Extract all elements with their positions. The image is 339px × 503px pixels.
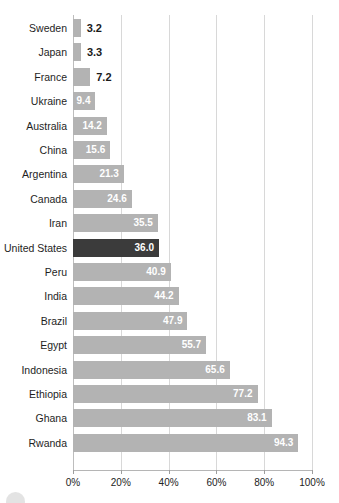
bar-track: 21.3: [73, 165, 312, 183]
bar-track: 24.6: [73, 190, 312, 208]
bar-series: Sweden3.2Japan3.3France7.2Ukraine9.4Aust…: [0, 15, 339, 470]
category-label: Rwanda: [0, 431, 67, 455]
category-label: Iran: [0, 211, 67, 235]
bar-track: 35.5: [73, 214, 312, 232]
x-tick-label: 20%: [99, 477, 143, 488]
bar-row: Japan3.3: [0, 40, 339, 64]
category-label: Canada: [0, 187, 67, 211]
bar-row: Argentina21.3: [0, 162, 339, 186]
category-label: Sweden: [0, 16, 67, 40]
category-label: Argentina: [0, 162, 67, 186]
category-label: India: [0, 284, 67, 308]
bar-track: 7.2: [73, 68, 312, 86]
bar-track: 77.2: [73, 385, 312, 403]
bar-value-label: 9.4: [73, 92, 95, 110]
bar-row: France7.2: [0, 65, 339, 89]
bar-track: 14.2: [73, 117, 312, 135]
bar-value-label: 44.2: [73, 287, 179, 305]
category-label: Peru: [0, 260, 67, 284]
bar-value-label: 36.0: [73, 239, 159, 257]
bar-track: 3.2: [73, 19, 312, 37]
bar[interactable]: [73, 19, 81, 37]
bar-row: Indonesia65.6: [0, 358, 339, 382]
chart-title: [0, 0, 339, 7]
x-axis-line: [73, 470, 312, 471]
bar-row: Australia14.2: [0, 114, 339, 138]
bar-value-label: 47.9: [73, 312, 187, 330]
category-label: Japan: [0, 40, 67, 64]
bar-track: 15.6: [73, 141, 312, 159]
bar-track: 3.3: [73, 43, 312, 61]
bar-track: 40.9: [73, 263, 312, 281]
category-label: France: [0, 65, 67, 89]
bar-row: Sweden3.2: [0, 16, 339, 40]
bar-value-label: 83.1: [73, 409, 272, 427]
bar-value-label: 3.2: [81, 19, 102, 37]
bar-row: Canada24.6: [0, 187, 339, 211]
bar-row: China15.6: [0, 138, 339, 162]
category-label: China: [0, 138, 67, 162]
bar-value-label: 14.2: [73, 117, 107, 135]
bar-value-label: 94.3: [73, 434, 298, 452]
x-tick-label: 60%: [194, 477, 238, 488]
bar-value-label: 55.7: [73, 336, 206, 354]
bar-value-label: 24.6: [73, 190, 132, 208]
bar-track: 44.2: [73, 287, 312, 305]
category-label: Egypt: [0, 333, 67, 357]
category-label: United States: [0, 236, 67, 260]
bar-track: 36.0: [73, 239, 312, 257]
x-tick: [169, 470, 170, 474]
x-tick-label: 80%: [242, 477, 286, 488]
bar-track: 65.6: [73, 361, 312, 379]
bar-track: 94.3: [73, 434, 312, 452]
bar-row: Ethiopia77.2: [0, 382, 339, 406]
bar-value-label: 77.2: [73, 385, 258, 403]
bar-row: Peru40.9: [0, 260, 339, 284]
category-label: Ethiopia: [0, 382, 67, 406]
bar[interactable]: [73, 43, 81, 61]
bar-value-label: 7.2: [90, 68, 111, 86]
x-tick-label: 40%: [147, 477, 191, 488]
x-tick: [73, 470, 74, 474]
bar-row: Rwanda94.3: [0, 431, 339, 455]
x-tick-label: 0%: [51, 477, 95, 488]
bar-track: 47.9: [73, 312, 312, 330]
bar-value-label: 3.3: [81, 43, 102, 61]
plot-area: Sweden3.2Japan3.3France7.2Ukraine9.4Aust…: [0, 15, 339, 470]
bar-value-label: 40.9: [73, 263, 171, 281]
bar-value-label: 35.5: [73, 214, 158, 232]
bar-value-label: 65.6: [73, 361, 230, 379]
bar-track: 83.1: [73, 409, 312, 427]
category-label: Ukraine: [0, 89, 67, 113]
bar-value-label: 21.3: [73, 165, 124, 183]
category-label: Indonesia: [0, 358, 67, 382]
bar-track: 9.4: [73, 92, 312, 110]
horizontal-bar-chart: Sweden3.2Japan3.3France7.2Ukraine9.4Aust…: [0, 0, 339, 503]
x-tick: [121, 470, 122, 474]
bar-row: Egypt55.7: [0, 333, 339, 357]
category-label: Australia: [0, 114, 67, 138]
x-tick: [264, 470, 265, 474]
bar-value-label: 15.6: [73, 141, 110, 159]
bar-row: United States36.0: [0, 236, 339, 260]
category-label: Ghana: [0, 406, 67, 430]
bar-row: India44.2: [0, 284, 339, 308]
circle-mark-icon: [6, 492, 25, 503]
bar-row: Iran35.5: [0, 211, 339, 235]
category-label: Brazil: [0, 309, 67, 333]
bar-track: 55.7: [73, 336, 312, 354]
bar-row: Ukraine9.4: [0, 89, 339, 113]
x-tick: [312, 470, 313, 474]
x-tick-label: 100%: [290, 477, 334, 488]
bar-row: Ghana83.1: [0, 406, 339, 430]
bar[interactable]: [73, 68, 90, 86]
bar-row: Brazil47.9: [0, 309, 339, 333]
x-tick: [216, 470, 217, 474]
